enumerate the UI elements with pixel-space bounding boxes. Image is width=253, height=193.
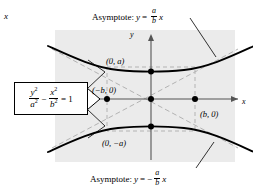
label-vertex-top: (0, a) bbox=[106, 57, 124, 66]
point-minus-b-marker bbox=[104, 96, 110, 102]
asymptote-bottom-prefix: Asymptote: bbox=[90, 174, 132, 184]
equation-row: y2 a2 − x2 b2 = 1 bbox=[29, 88, 72, 109]
asymptote-bottom-equals: = bbox=[140, 174, 145, 184]
corner-x-label: x bbox=[4, 12, 8, 21]
asymptote-top-fraction: a b bbox=[151, 7, 157, 25]
point-vertex-bottom bbox=[148, 123, 154, 129]
equation-left-numerator: y2 bbox=[30, 88, 39, 97]
asymptote-bottom-numerator: a bbox=[154, 169, 160, 177]
asymptote-top-prefix: Asymptote: bbox=[92, 12, 134, 22]
asymptote-top-variable: x bbox=[159, 12, 163, 22]
point-origin bbox=[148, 96, 154, 102]
asymptote-bottom-fraction: a b bbox=[154, 169, 160, 187]
asymptote-bottom-sign: − bbox=[147, 174, 152, 184]
asymptote-bottom-caption: Asymptote: y = − a b x bbox=[90, 170, 166, 188]
equation-left-denominator-exponent: 2 bbox=[35, 98, 38, 104]
asymptote-top-caption: Asymptote: y = a b x bbox=[92, 8, 163, 26]
equation-right-denominator-exponent: 2 bbox=[54, 98, 57, 104]
equation-right-denominator: b2 bbox=[49, 100, 59, 109]
asymptote-top-denominator: b bbox=[151, 17, 157, 25]
figure-canvas: x y x (0, a) (0, −a) (−b, 0) (b, 0) Asym… bbox=[0, 0, 253, 193]
label-vertex-bottom: (0, −a) bbox=[102, 139, 126, 148]
equation-operator: − bbox=[41, 94, 46, 104]
point-b-marker bbox=[192, 96, 198, 102]
equation-callout-box: y2 a2 − x2 b2 = 1 bbox=[14, 82, 88, 115]
equation-right-fraction: x2 b2 bbox=[49, 88, 59, 109]
equation-left-fraction: y2 a2 bbox=[29, 88, 39, 109]
equation-left-denominator: a2 bbox=[29, 100, 39, 109]
equation-left-numerator-exponent: 2 bbox=[35, 86, 38, 92]
asymptote-bottom-lhs: y bbox=[134, 174, 138, 184]
asymptote-top-numerator: a bbox=[151, 7, 157, 15]
equation-right-numerator: x2 bbox=[49, 88, 58, 97]
asymptote-top-lhs: y bbox=[136, 12, 140, 22]
point-vertex-top bbox=[148, 69, 154, 75]
y-axis-label: y bbox=[130, 31, 134, 39]
x-axis-label: x bbox=[242, 98, 246, 106]
asymptote-bottom-variable: x bbox=[162, 174, 166, 184]
equation-right-numerator-exponent: 2 bbox=[54, 86, 57, 92]
label-point-b: (b, 0) bbox=[200, 110, 218, 119]
label-point-minus-b: (−b, 0) bbox=[92, 86, 116, 95]
equation-equals: = 1 bbox=[61, 94, 73, 104]
asymptote-top-equals: = bbox=[142, 12, 147, 22]
asymptote-bottom-denominator: b bbox=[154, 179, 160, 187]
